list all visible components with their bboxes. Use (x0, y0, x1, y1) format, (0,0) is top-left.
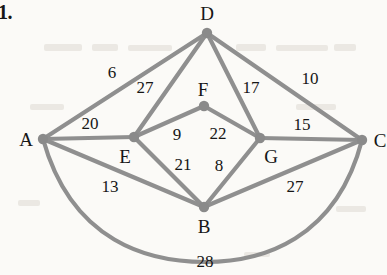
edge-weight-e-b: 21 (175, 156, 192, 173)
node-c (357, 135, 367, 145)
edge-weight-a-d: 6 (108, 64, 117, 81)
edge-weight-e-f: 9 (173, 126, 182, 143)
edge-weight-f-g: 22 (210, 125, 227, 142)
node-d (202, 28, 212, 38)
edge-weight-g-c: 15 (294, 116, 311, 133)
edge-weight-e-d: 27 (137, 79, 154, 96)
node-f (199, 101, 209, 111)
edge-d-c (207, 33, 362, 140)
node-label-e: E (119, 147, 131, 166)
edge-weight-d-c: 10 (302, 70, 319, 87)
edge-weight-b-c: 27 (287, 178, 304, 195)
node-label-d: D (200, 4, 214, 23)
edge-g-c (260, 138, 362, 140)
node-a (38, 134, 48, 144)
node-e (129, 132, 139, 142)
node-label-f: F (198, 80, 209, 99)
edge-weight-b-g: 8 (215, 157, 224, 174)
edge-weight-a-c: 28 (197, 253, 214, 270)
edge-weight-a-b: 13 (102, 178, 119, 195)
edge-a-e (43, 137, 134, 139)
node-label-c: C (374, 131, 387, 150)
figure-container: 1. 62013282717109222181527ABCDEFG (0, 0, 387, 275)
node-g (255, 133, 265, 143)
graph-canvas (0, 0, 387, 275)
edge-weight-a-e: 20 (82, 115, 99, 132)
edge-a-d (43, 33, 207, 139)
edge-weight-d-g: 17 (243, 79, 260, 96)
edge-e-b (134, 137, 204, 207)
node-label-a: A (19, 130, 33, 149)
node-label-b: B (198, 217, 211, 236)
node-label-g: G (264, 147, 278, 166)
problem-number: 1. (0, 2, 12, 22)
node-b (199, 202, 209, 212)
